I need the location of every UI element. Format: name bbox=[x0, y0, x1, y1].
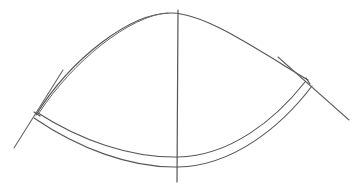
left-tangent-line bbox=[14, 70, 63, 148]
diagram-canvas bbox=[0, 0, 359, 188]
vertical-axis-line bbox=[177, 10, 178, 182]
band-inner-arc bbox=[38, 82, 305, 157]
right-tangent-line bbox=[278, 57, 349, 120]
top-arc-double bbox=[39, 13, 168, 113]
top-arc bbox=[36, 13, 308, 115]
band-outer-arc bbox=[34, 86, 312, 167]
lens-drawing bbox=[0, 0, 359, 188]
